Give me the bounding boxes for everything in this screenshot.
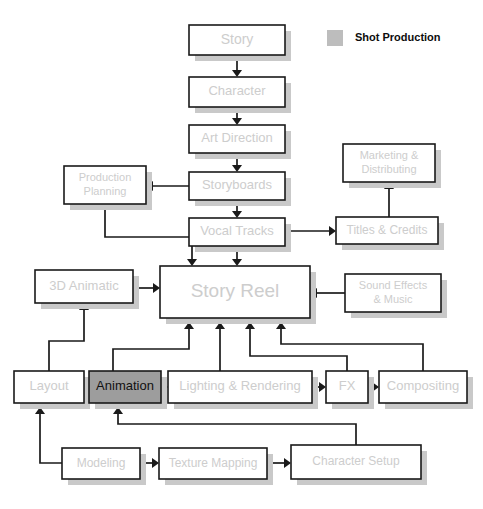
edge-lighting-rendering-to-story-reel xyxy=(215,322,225,371)
node-label: Titles & Credits xyxy=(347,223,428,237)
node-story-reel[interactable]: Story Reel xyxy=(160,266,316,324)
legend: Shot Production xyxy=(327,30,441,46)
arrow-head xyxy=(329,226,336,236)
node-marketing-distributing[interactable]: Marketing &Distributing xyxy=(343,144,441,188)
edge-line xyxy=(49,308,84,371)
node-animation[interactable]: Animation xyxy=(89,371,167,409)
node-art-direction[interactable]: Art Direction xyxy=(189,125,291,159)
node-label: Storyboards xyxy=(202,177,273,192)
arrow-head xyxy=(232,259,242,266)
arrow-head xyxy=(232,165,242,172)
arrow-head xyxy=(187,259,197,266)
node-character-setup[interactable]: Character Setup xyxy=(291,445,427,485)
edge-line xyxy=(113,326,189,371)
node-modeling[interactable]: Modeling xyxy=(62,448,146,485)
node-label: Marketing & xyxy=(360,149,419,161)
node-label: Compositing xyxy=(387,378,459,393)
node-story[interactable]: Story xyxy=(189,25,291,61)
arrow-head xyxy=(284,458,291,468)
arrow-head xyxy=(232,70,242,77)
edge-line xyxy=(40,411,62,463)
legend-swatch xyxy=(327,30,343,46)
arrow-head xyxy=(152,458,159,468)
node-label: Story Reel xyxy=(191,280,280,301)
node-vocal-tracks[interactable]: Vocal Tracks xyxy=(189,218,291,252)
node-label: Art Direction xyxy=(201,130,273,145)
node-storyboards[interactable]: Storyboards xyxy=(189,172,291,206)
edge-line xyxy=(281,326,423,371)
node-label: FX xyxy=(339,378,356,393)
node-layout[interactable]: Layout xyxy=(14,371,90,409)
node-label: Story xyxy=(221,31,254,47)
edge-compositing-to-story-reel xyxy=(276,322,423,371)
edge-vocal-tracks-to-titles-credits xyxy=(285,226,336,236)
node-3d-animatic[interactable]: 3D Animatic xyxy=(35,270,139,309)
node-label: & Music xyxy=(373,293,413,305)
node-label: Character xyxy=(208,83,266,98)
edge-fx-to-story-reel xyxy=(245,322,347,371)
edge-modeling-to-layout xyxy=(35,407,62,463)
node-label: Vocal Tracks xyxy=(200,223,274,238)
legend-label: Shot Production xyxy=(355,31,441,43)
node-fx[interactable]: FX xyxy=(326,371,374,409)
edge-production-planning-to-story-reel xyxy=(105,204,197,266)
node-titles-credits[interactable]: Titles & Credits xyxy=(336,217,444,250)
node-label: Modeling xyxy=(77,456,126,470)
node-label: Layout xyxy=(29,378,68,393)
node-lighting-rendering[interactable]: Lighting & Rendering xyxy=(168,371,318,409)
node-label: Animation xyxy=(96,378,154,393)
edge-line xyxy=(118,411,356,445)
edge-line xyxy=(250,326,347,371)
arrow-head xyxy=(232,211,242,218)
node-label: 3D Animatic xyxy=(49,278,119,293)
arrow-head xyxy=(232,118,242,125)
node-label: Sound Effects xyxy=(359,279,428,291)
node-texture-mapping[interactable]: Texture Mapping xyxy=(159,448,273,485)
edge-layout-to-3d-animatic xyxy=(49,303,89,371)
edge-character-setup-to-animation xyxy=(113,407,356,445)
node-label: Planning xyxy=(84,185,127,197)
node-compositing[interactable]: Compositing xyxy=(379,371,473,409)
edge-line xyxy=(105,204,192,262)
node-character[interactable]: Character xyxy=(189,77,291,113)
flowchart-canvas: StoryCharacterArt DirectionProductionPla… xyxy=(0,0,483,509)
arrow-head xyxy=(153,283,160,293)
node-label: Lighting & Rendering xyxy=(179,378,300,393)
flowchart-diagram: StoryCharacterArt DirectionProductionPla… xyxy=(0,0,483,509)
node-label: Production xyxy=(79,171,132,183)
node-label: Distributing xyxy=(361,163,416,175)
edge-animation-to-story-reel xyxy=(113,322,194,371)
arrow-head xyxy=(319,382,326,392)
node-label: Texture Mapping xyxy=(169,456,258,470)
node-sound-effects-music[interactable]: Sound Effects& Music xyxy=(345,274,447,318)
node-label: Character Setup xyxy=(312,454,400,468)
nodes-layer: StoryCharacterArt DirectionProductionPla… xyxy=(14,25,473,485)
node-production-planning[interactable]: ProductionPlanning xyxy=(64,166,152,210)
edge-storyboards-to-production-planning xyxy=(146,181,189,191)
